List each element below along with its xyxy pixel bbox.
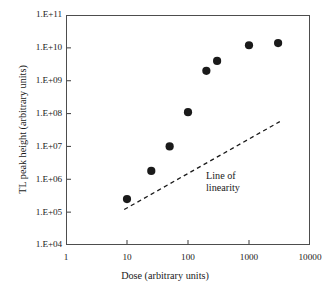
x-tick-label: 1: [64, 253, 69, 262]
x-tick-label: 10000: [299, 253, 322, 262]
y-tick-label: 1.E+10: [36, 43, 62, 52]
y-tick-label: 1.E+07: [36, 142, 62, 151]
x-tick-label: 1000: [240, 253, 258, 262]
y-tick-label: 1.E+05: [36, 208, 62, 217]
line-of-linearity-label-line1: Line of: [206, 170, 240, 182]
x-tick-label: 100: [181, 253, 195, 262]
x-axis-title: Dose (arbitrary units): [0, 270, 330, 281]
chart-figure: 1.E+111.E+101.E+091.E+081.E+071.E+061.E+…: [0, 0, 330, 293]
y-tick-label: 1.E+09: [36, 76, 62, 85]
y-tick-label: 1.E+11: [36, 10, 62, 19]
x-tick-label: 10: [122, 253, 131, 262]
y-tick-label: 1.E+04: [36, 240, 62, 249]
line-of-linearity-label-line2: linearity: [206, 182, 240, 194]
line-of-linearity-label: Line of linearity: [206, 170, 240, 195]
y-tick-label: 1.E+08: [36, 109, 62, 118]
plot-area: [66, 15, 310, 245]
y-tick-label: 1.E+06: [36, 175, 62, 184]
y-axis-title: TL peak height (arbitrary units): [17, 10, 28, 250]
